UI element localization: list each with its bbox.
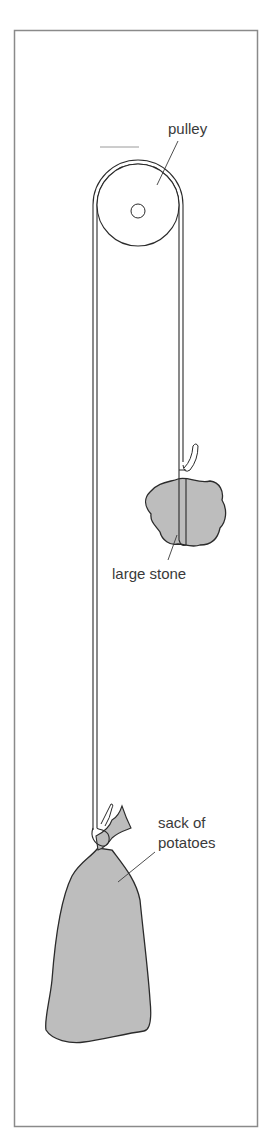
sack-label-line-2: potatoes xyxy=(158,834,216,851)
large-stone xyxy=(146,444,226,546)
stone-label: large stone xyxy=(112,565,186,582)
pulley-label: pulley xyxy=(168,120,208,137)
sack-of-potatoes xyxy=(46,804,151,1043)
pulley-diagram: pulley large stone sack of potatoes xyxy=(0,0,265,1142)
sack-body xyxy=(46,848,151,1043)
pulley xyxy=(97,164,179,246)
sack-label-line-1: sack of xyxy=(158,814,206,831)
pulley-axle xyxy=(131,204,145,218)
stone-rope-tail xyxy=(183,444,198,471)
sack-neck xyxy=(96,806,131,850)
